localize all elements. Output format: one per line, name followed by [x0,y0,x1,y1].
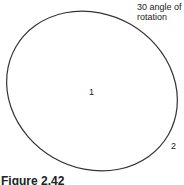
rotation-annotation: 30 angle of rotation [137,2,182,22]
annotation-line-2: rotation [137,12,182,22]
figure-caption: Figure 2.42 [1,176,64,185]
center-label: 1 [89,87,94,97]
annotation-line-1: 30 angle of [137,2,182,12]
edge-label: 2 [171,141,176,151]
